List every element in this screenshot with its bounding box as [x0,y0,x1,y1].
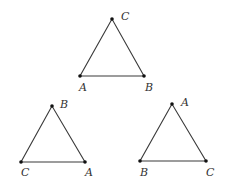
vertex-br-A [170,102,174,106]
triangle-top: C A B [78,10,153,94]
vertex-br-B [138,159,142,163]
vertex-top-C [110,17,114,21]
vertex-bl-A [83,160,87,164]
vertex-bl-B [50,104,54,108]
label-br-A: A [180,96,189,109]
vertex-top-B [142,74,146,78]
triangle-bottom-right-edges [140,104,206,161]
label-bl-A: A [84,166,93,179]
triangle-bottom-left: B C A [19,98,93,179]
label-top-C: C [121,10,130,23]
label-br-B: B [139,166,148,179]
vertex-br-C [204,159,208,163]
triangle-top-edges [80,19,144,76]
label-top-A: A [78,81,87,94]
label-top-B: B [144,81,153,94]
label-br-C: C [206,166,215,179]
triangle-bottom-right: A B C [138,96,215,179]
label-bl-B: B [59,98,68,111]
triangle-diagram: C A B B C A A B C [0,0,228,187]
vertex-bl-C [19,160,23,164]
vertex-top-A [78,74,82,78]
triangle-bottom-left-edges [21,106,85,162]
label-bl-C: C [21,166,30,179]
